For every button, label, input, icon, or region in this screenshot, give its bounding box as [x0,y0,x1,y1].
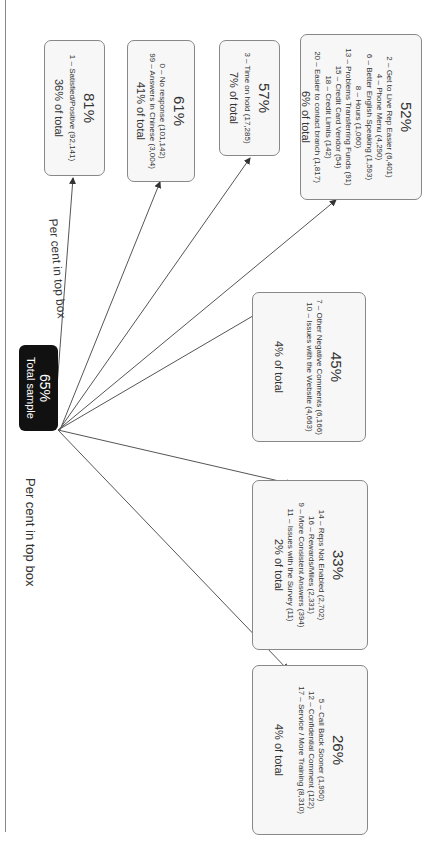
node-61: 61% 0 – No response (101,142) 99 – Answe… [127,40,195,182]
node-items: 3 – Time on hold (17,285) [242,52,252,143]
node-items: 5 – Call Back Sooner (1,950) 12 – Confid… [295,686,326,814]
node-items: 7 – Other Negative Comments (6,166) 10 –… [304,299,324,435]
root-label: Total sample [25,357,37,419]
node-item: 15 – Credit Card Vendor (54) [333,48,343,185]
node-item: 3 – Time on hold (17,285) [242,52,252,143]
root-percent: 65% [37,374,52,402]
node-52: 52% 2 – Get to Live Rep Easier (6,401) 4… [300,34,422,200]
node-item: 99 – Answers in Chinese (3,004) [147,53,157,169]
node-total: 36% of total [53,79,65,137]
node-total: 7% of total [228,72,240,124]
node-81: 81% 1 – Satisfied/Positive (92,141) 36% … [44,40,105,176]
node-percent: 61% [171,96,188,126]
node-item: 18 – Credit Limits (142) [322,48,332,185]
node-item: 6 – Better English Speaking (1,593) [363,48,373,185]
node-percent: 57% [256,83,273,113]
node-item: 4 – Phone Menu (4,290) [374,48,384,185]
node-item: 11 – Issues with the Survey (11) [285,503,295,628]
node-percent: 45% [328,352,345,382]
node-total: 4% of total [273,724,285,776]
node-item: 13 – Problems Transferring Funds (91) [343,48,353,185]
arrow-to-57 [59,158,250,430]
node-45: 45% 7 – Other Negative Comments (6,166) … [252,292,366,442]
node-items: 14 – Reps Not Enabled (2,702) 16 – Rewar… [285,503,326,628]
node-item: 2 – Get to Live Rep Easier (6,401) [384,48,394,185]
node-items: 1 – Satisfied/Positive (92,141) [67,55,77,161]
node-item: 17 – Service / More Training (8,310) [295,686,305,814]
node-items: 2 – Get to Live Rep Easier (6,401) 4 – P… [312,48,394,185]
node-26: 26% 5 – Call Back Sooner (1,950) 12 – Co… [252,665,368,835]
node-item: 1 – Satisfied/Positive (92,141) [67,55,77,161]
node-item: 12 – Confidential Comment (122) [306,686,316,814]
node-percent: 26% [330,735,347,765]
diagram-canvas: Per cent in top box Per cent in top box … [0,0,448,863]
arrow-to-61 [60,182,160,430]
node-item: 9 – More Consistent Answers (394) [295,503,305,628]
root-node-total-sample: 65% Total sample [19,345,58,431]
node-percent: 52% [398,102,415,132]
node-item: 16 – Rewards/Miles (2,331) [306,503,316,628]
node-percent: 33% [330,550,347,580]
node-item: 8 – Hours (1,060) [353,48,363,185]
node-total: 2% of total [273,539,285,591]
node-total: 6% of total [300,91,312,143]
node-item: 7 – Other Negative Comments (6,166) [314,299,324,435]
node-33: 33% 14 – Reps Not Enabled (2,702) 16 – R… [252,480,368,650]
node-total: 41% of total [135,82,147,140]
node-total: 4% of total [273,341,285,393]
node-percent: 81% [81,93,98,123]
node-items: 0 – No response (101,142) 99 – Answers i… [147,53,167,169]
node-57: 57% 3 – Time on hold (17,285) 7% of tota… [219,40,280,156]
node-item: 5 – Call Back Sooner (1,950) [316,686,326,814]
node-item: 14 – Reps Not Enabled (2,702) [316,503,326,628]
node-item: 0 – No response (101,142) [157,53,167,169]
node-item: 10 – Issues with the Website (4,663) [304,299,314,435]
node-item: 20 – Easier to contact branch (1,817) [312,48,322,185]
